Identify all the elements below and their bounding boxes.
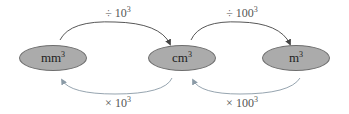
node-m3-label: m3 [289, 50, 303, 66]
unit-conversion-diagram: mm3 cm3 m3 ÷ 103 ÷ 1003 × 103 × 1003 [0, 0, 349, 114]
arrow-cm-to-mm [62, 78, 172, 94]
label-times-10-cubed: × 103 [105, 96, 131, 111]
label-times-100-cubed: × 1003 [226, 96, 258, 111]
label-divide-100-cubed: ÷ 1003 [226, 6, 258, 21]
node-mm3: mm3 [19, 45, 87, 71]
arrow-m-to-cm [193, 78, 300, 94]
node-m3: m3 [262, 45, 330, 71]
node-cm3: cm3 [148, 45, 216, 71]
arrow-mm-to-cm [60, 22, 170, 44]
arrow-cm-to-m [191, 22, 290, 44]
node-cm3-label: cm3 [172, 50, 192, 66]
label-divide-10-cubed: ÷ 103 [105, 6, 131, 21]
node-mm3-label: mm3 [41, 50, 65, 66]
